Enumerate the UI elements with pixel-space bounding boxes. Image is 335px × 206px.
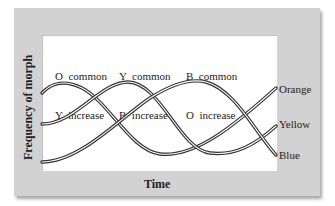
x-axis-label: Time bbox=[144, 177, 170, 192]
y-axis-label: Frequency of morph bbox=[21, 55, 36, 160]
blue-label: Blue bbox=[279, 149, 300, 161]
orange-label: Orange bbox=[279, 83, 311, 95]
frequency-curves bbox=[0, 0, 335, 206]
yellow-label: Yellow bbox=[279, 118, 310, 130]
